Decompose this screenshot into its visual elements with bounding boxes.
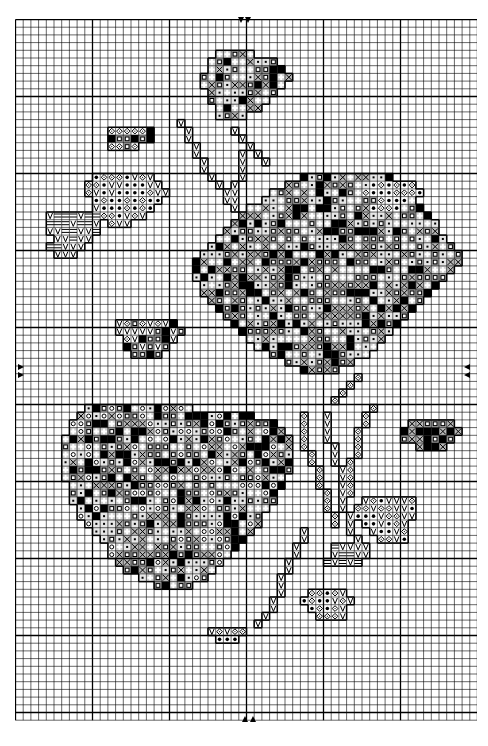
cross-stitch-chart [15,19,477,723]
center-marker-top-2 [245,17,251,23]
center-marker-bottom-1 [242,716,248,722]
center-marker-left-1 [18,364,24,370]
center-marker-bottom-2 [250,716,256,722]
center-marker-top-1 [238,17,244,23]
center-marker-right-1 [464,364,470,370]
center-marker-right-2 [464,372,470,378]
center-marker-left-2 [18,372,24,378]
